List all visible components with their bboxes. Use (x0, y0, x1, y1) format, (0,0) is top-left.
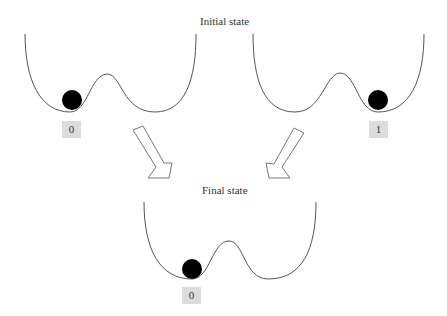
double-well-diagram (0, 0, 447, 316)
state-label-final: 0 (182, 287, 201, 304)
ball-icon (62, 90, 82, 110)
potential-well-initial-left (25, 34, 196, 112)
arrow-down-left-icon (266, 128, 304, 178)
potential-well-initial-right (253, 34, 424, 112)
potential-well-final (144, 202, 316, 279)
state-label-initial-left: 0 (62, 121, 81, 138)
ball-icon (182, 259, 202, 279)
arrow-down-right-icon (133, 126, 172, 178)
state-label-initial-right: 1 (369, 121, 388, 138)
ball-icon (368, 90, 388, 110)
